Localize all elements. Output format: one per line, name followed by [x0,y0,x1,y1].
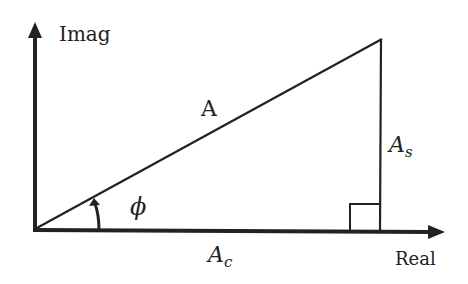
adjacent-label: Ac [206,242,233,271]
real-axis-label: Real [395,248,436,269]
real-axis [33,225,445,239]
hypotenuse-line [35,39,382,229]
hypotenuse-label: A [200,96,218,121]
angle-arc-icon [89,198,100,231]
opposite-side-line [380,39,381,231]
imag-axis [28,22,42,231]
right-angle-marker [350,204,380,231]
opposite-label: As [387,132,413,161]
phasor-diagram: Imag Real A ϕ Ac As [0,0,468,284]
imag-axis-label: Imag [59,22,111,46]
real-axis-arrow-icon [428,225,445,239]
imag-axis-arrow-icon [28,22,42,38]
angle-label: ϕ [130,193,146,221]
